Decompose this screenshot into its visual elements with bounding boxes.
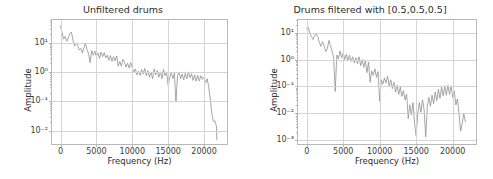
x-axis-label-left: Frequency (Hz): [51, 156, 228, 166]
grid-line-horizontal: [298, 113, 476, 114]
chart-panel-filtered: Drums filtered with [0.5,0.5,0.5] Amplit…: [247, 0, 493, 179]
y-minor-tick-mark: [50, 29, 52, 30]
y-minor-tick-mark: [296, 78, 298, 79]
x-tick-label: 0: [304, 148, 309, 156]
x-tick-label: 15000: [155, 148, 180, 156]
y-minor-tick-mark: [296, 117, 298, 118]
y-minor-tick-mark: [50, 104, 52, 105]
y-minor-tick-mark: [296, 94, 298, 95]
y-minor-tick-mark: [50, 44, 52, 45]
y-minor-tick-mark: [50, 25, 52, 26]
y-tick-label: 10⁰: [35, 68, 48, 76]
y-minor-tick-mark: [50, 122, 52, 123]
y-minor-tick-mark: [296, 119, 298, 120]
y-minor-tick-mark: [296, 39, 298, 40]
y-minor-tick-mark: [296, 97, 298, 98]
plot-area-left: 0500010000150002000010¹10⁰10⁻¹10⁻²: [51, 19, 228, 145]
y-tick-label: 10¹: [281, 29, 294, 37]
y-minor-tick-mark: [50, 73, 52, 74]
y-minor-tick-mark: [50, 77, 52, 78]
x-tick-label: 5000: [86, 148, 106, 156]
y-tick-label: 10⁰: [281, 56, 294, 64]
y-minor-tick-mark: [296, 34, 298, 35]
y-tick-label: 10¹: [35, 39, 48, 47]
y-minor-tick-mark: [296, 90, 298, 91]
y-minor-tick-mark: [50, 81, 52, 82]
y-minor-tick-mark: [50, 52, 52, 53]
y-minor-tick-mark: [296, 132, 298, 133]
y-minor-tick-mark: [50, 49, 52, 50]
y-minor-tick-mark: [296, 114, 298, 115]
x-axis-label-right: Frequency (Hz): [297, 156, 477, 166]
grid-line-vertical: [132, 20, 133, 144]
y-minor-tick-mark: [296, 65, 298, 66]
chart-title-right: Drums filtered with [0.5,0.5,0.5]: [247, 4, 493, 15]
grid-line-horizontal: [298, 60, 476, 61]
y-minor-tick-mark: [296, 92, 298, 93]
y-minor-tick-mark: [50, 22, 52, 23]
y-minor-tick-mark: [296, 64, 298, 65]
grid-line-horizontal: [52, 72, 227, 73]
y-minor-tick-mark: [50, 54, 52, 55]
grid-line-horizontal: [52, 131, 227, 132]
y-minor-tick-mark: [296, 124, 298, 125]
y-minor-tick-mark: [50, 75, 52, 76]
y-tick-mark: [49, 131, 52, 132]
y-minor-tick-mark: [296, 70, 298, 71]
y-minor-tick-mark: [50, 117, 52, 118]
y-minor-tick-mark: [50, 87, 52, 88]
y-minor-tick-mark: [50, 63, 52, 64]
x-tick-label: 0: [58, 148, 63, 156]
y-minor-tick-mark: [296, 127, 298, 128]
grid-line-vertical: [307, 20, 308, 144]
y-tick-mark: [295, 140, 298, 141]
grid-line-vertical: [380, 20, 381, 144]
y-minor-tick-mark: [296, 100, 298, 101]
y-minor-tick-mark: [50, 79, 52, 80]
y-minor-tick-mark: [296, 121, 298, 122]
y-minor-tick-mark: [50, 46, 52, 47]
y-minor-tick-mark: [296, 47, 298, 48]
y-minor-tick-mark: [50, 47, 52, 48]
y-tick-label: 10⁻²: [30, 127, 48, 135]
y-minor-tick-mark: [296, 25, 298, 26]
grid-line-vertical: [204, 20, 205, 144]
y-tick-label: 10⁻¹: [30, 97, 48, 105]
grid-line-vertical: [416, 20, 417, 144]
x-tick-label: 10000: [120, 148, 145, 156]
y-minor-tick-mark: [50, 58, 52, 59]
y-minor-tick-mark: [50, 110, 52, 111]
y-minor-tick-mark: [296, 62, 298, 63]
x-tick-label: 20000: [440, 148, 465, 156]
y-minor-tick-mark: [50, 93, 52, 94]
figure-canvas: Unfiltered drums Amplitude Frequency (Hz…: [0, 0, 493, 179]
y-tick-label: 10⁻³: [276, 136, 294, 144]
spectrum-line-right: [298, 20, 476, 144]
y-minor-tick-mark: [296, 37, 298, 38]
grid-line-horizontal: [52, 101, 227, 102]
x-tick-label: 15000: [403, 148, 428, 156]
y-minor-tick-mark: [296, 61, 298, 62]
grid-line-vertical: [453, 20, 454, 144]
grid-line-horizontal: [52, 43, 227, 44]
grid-line-horizontal: [298, 33, 476, 34]
chart-panel-unfiltered: Unfiltered drums Amplitude Frequency (Hz…: [0, 0, 246, 179]
y-minor-tick-mark: [296, 20, 298, 21]
y-tick-label: 10⁻²: [276, 109, 294, 117]
x-tick-label: 10000: [367, 148, 392, 156]
y-minor-tick-mark: [296, 105, 298, 106]
y-minor-tick-mark: [296, 88, 298, 89]
y-minor-tick-mark: [296, 43, 298, 44]
y-tick-label: 10⁻¹: [276, 82, 294, 90]
grid-line-horizontal: [298, 140, 476, 141]
x-tick-label: 5000: [333, 148, 353, 156]
y-minor-tick-mark: [296, 68, 298, 69]
spectrum-line-left: [52, 20, 227, 144]
y-minor-tick-mark: [50, 113, 52, 114]
grid-line-vertical: [96, 20, 97, 144]
x-tick-label: 20000: [191, 148, 216, 156]
y-minor-tick-mark: [50, 84, 52, 85]
y-minor-tick-mark: [296, 35, 298, 36]
y-minor-tick-mark: [296, 89, 298, 90]
plot-area-right: 0500010000150002000010¹10⁰10⁻¹10⁻²10⁻³: [297, 19, 477, 145]
